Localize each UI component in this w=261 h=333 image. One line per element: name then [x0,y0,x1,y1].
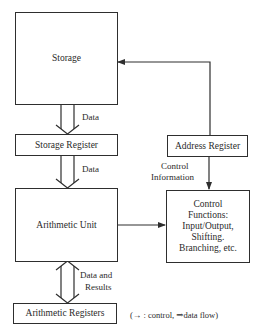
data-flow-arrow-storage-to-register [56,105,79,134]
data-flow-arrow-arithmetic-bidirectional [56,261,79,303]
edge-label-data-and-results-line1: Data and [80,270,112,281]
control-arrow-address-to-storage [118,62,210,135]
storage-register-label: Storage Register [35,140,98,151]
edge-label-control-information-line2: Information [151,172,194,183]
control-functions-line1: Control [193,199,222,210]
arithmetic-registers-label: Arithmetic Registers [26,308,105,319]
address-register-label: Address Register [175,141,240,152]
storage-register-box: Storage Register [15,134,118,156]
arithmetic-unit-box: Arithmetic Unit [15,188,118,262]
control-functions-box: Control Functions: Input/Output, Shiftin… [166,190,250,263]
storage-label: Storage [52,53,81,64]
data-flow-arrow-register-to-arithmetic [56,155,79,188]
edge-label-data-1: Data [82,112,99,123]
legend: (→ : control, ⇒data flow) [130,310,218,321]
storage-box: Storage [15,12,118,105]
edge-label-data-and-results-line2: Results [85,282,112,293]
control-functions-line4: Shifting. [192,232,225,243]
arithmetic-registers-box: Arithmetic Registers [13,303,117,324]
control-functions-line5: Branching, etc. [179,243,237,254]
edge-label-control-information-line1: Control [161,161,189,172]
arithmetic-unit-label: Arithmetic Unit [36,220,96,231]
control-functions-line3: Input/Output, [182,221,233,232]
address-register-box: Address Register [167,135,248,157]
edge-label-data-2: Data [82,164,99,175]
control-functions-line2: Functions: [188,210,228,221]
